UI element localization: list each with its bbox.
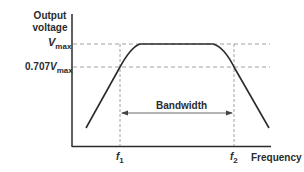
v707-label: 0.707Vmax bbox=[25, 61, 73, 76]
y-axis-label: Output voltage bbox=[32, 10, 68, 33]
vmax-label-sub: max bbox=[55, 42, 71, 51]
f2-label: f2 bbox=[230, 151, 238, 166]
x-axis-label: Frequency bbox=[251, 152, 302, 163]
f2-label-sub: 2 bbox=[233, 156, 237, 165]
bandwidth-label: Bandwidth bbox=[156, 100, 207, 111]
v707-label-prefix: 0.707 bbox=[25, 61, 50, 72]
bandwidth-arrow-left-head bbox=[121, 111, 128, 116]
bandwidth-arrow-right-head bbox=[226, 111, 233, 116]
vmax-label: Vmax bbox=[48, 37, 71, 52]
v707-label-sub: max bbox=[57, 66, 73, 75]
y-axis-label-line1: Output bbox=[32, 10, 68, 21]
y-axis-label-line2: voltage bbox=[32, 22, 68, 33]
response-curve bbox=[86, 44, 269, 128]
v707-label-main: V bbox=[50, 61, 57, 72]
f1-label: f1 bbox=[116, 151, 124, 166]
f1-label-sub: 1 bbox=[119, 156, 123, 165]
